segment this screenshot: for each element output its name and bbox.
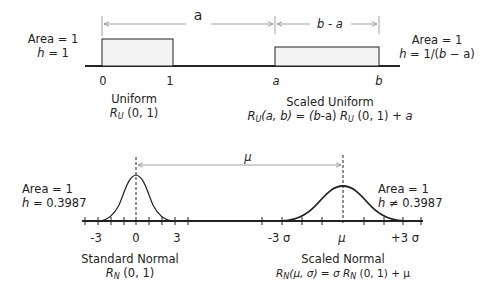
normal-axis <box>82 217 423 225</box>
a-dimension-label: a <box>194 8 203 23</box>
uniform-area-label: Area = 1 h = 1 <box>28 32 79 60</box>
scaled-normal-area-label: Area = 1 h ≠ 0.3987 <box>378 182 442 210</box>
standard-normal-name: Standard Normal <box>81 252 179 266</box>
standard-normal-area-label: Area = 1 h = 0.3987 <box>22 182 86 210</box>
uniform-name: Uniform <box>110 92 158 106</box>
scaled-uniform-tick-b: b <box>375 74 382 88</box>
scaled-normal-tick-pos3sigma: +3 σ <box>391 231 419 245</box>
scaled-normal-tick-neg3sigma: -3 σ <box>268 231 290 245</box>
uniform-tick-0: 0 <box>99 74 106 88</box>
standard-normal-tick-0: 0 <box>132 231 139 245</box>
uniform-caption: Uniform RU (0, 1) <box>110 92 158 124</box>
standard-normal-caption: Standard Normal RN (0, 1) <box>81 252 179 284</box>
scaled-uniform-caption: Scaled Uniform RU(a, b) = (b-a) RU (0, 1… <box>247 95 412 127</box>
standard-normal-formula: RN (0, 1) <box>81 266 179 284</box>
uniform-box <box>102 39 173 66</box>
mu-dimension-label: μ <box>244 150 251 164</box>
standard-normal-tick-3: 3 <box>173 231 180 245</box>
scaled-normal-tick-mu: μ <box>338 231 345 245</box>
scaled-uniform-box <box>275 47 379 66</box>
b-minus-a-dimension-label: b - a <box>317 17 343 31</box>
uniform-tick-1: 1 <box>166 74 173 88</box>
standard-normal-tick-neg3: -3 <box>90 231 101 245</box>
scaled-normal-name: Scaled Normal <box>276 252 410 266</box>
scaled-uniform-name: Scaled Uniform <box>247 95 412 109</box>
uniform-formula: RU (0, 1) <box>110 106 158 124</box>
scaled-uniform-formula: RU(a, b) = (b-a) RU (0, 1) + a <box>247 109 412 127</box>
scaled-normal-formula: RN(μ, σ) = σ RN (0, 1) + μ <box>276 266 410 284</box>
scaled-uniform-area-label: Area = 1 h = 1/(b − a) <box>399 33 475 61</box>
scaled-uniform-tick-a: a <box>272 74 279 88</box>
scaled-normal-caption: Scaled Normal RN(μ, σ) = σ RN (0, 1) + μ <box>276 252 410 284</box>
